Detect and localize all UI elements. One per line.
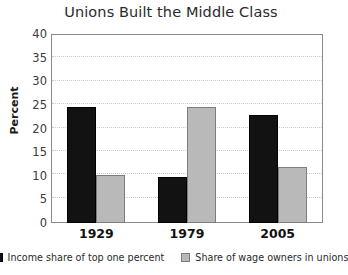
gridline — [52, 173, 322, 175]
gridline — [52, 56, 322, 58]
chart-title: Unions Built the Middle Class — [0, 4, 342, 20]
x-tick-label: 1929 — [79, 226, 114, 241]
y-tick-label: 20 — [0, 122, 47, 136]
legend-label: Income share of top one percent — [8, 252, 165, 263]
x-axis-tick-labels: 192919792005 — [51, 226, 323, 244]
legend-entry: Share of wage owners in unions — [181, 252, 348, 263]
legend-entry: Income share of top one percent — [0, 252, 164, 263]
x-tick-label: 2005 — [260, 226, 295, 241]
gridline — [52, 80, 322, 82]
gridlines — [52, 35, 322, 222]
y-tick-label: 10 — [0, 169, 47, 183]
y-tick-label: 30 — [0, 74, 47, 88]
y-tick-label: 5 — [0, 192, 47, 206]
legend-swatch — [181, 253, 190, 262]
gridline — [52, 103, 322, 105]
chart-legend: Income share of top one percentShare of … — [0, 252, 342, 263]
legend-swatch — [0, 253, 3, 262]
y-tick-label: 25 — [0, 98, 47, 112]
x-tick-label: 1979 — [170, 226, 205, 241]
y-tick-label: 35 — [0, 51, 47, 65]
y-axis-tick-labels: 0510152025303540 — [0, 34, 47, 223]
gridline — [52, 127, 322, 129]
y-tick-label: 40 — [0, 27, 47, 41]
gridline — [52, 150, 322, 152]
y-tick-label: 0 — [0, 216, 47, 230]
legend-label: Share of wage owners in unions — [195, 252, 348, 263]
gridline — [52, 197, 322, 199]
y-tick-label: 15 — [0, 145, 47, 159]
plot-area — [51, 34, 323, 223]
